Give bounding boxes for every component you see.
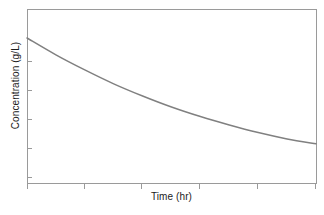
plot-frame (27, 9, 316, 183)
chart-plot-svg (0, 0, 324, 215)
x-axis-title: Time (hr) (27, 191, 316, 202)
chart-figure: Concentration (g/L) Time (hr) (0, 0, 324, 215)
x-axis-ticks (28, 183, 316, 189)
